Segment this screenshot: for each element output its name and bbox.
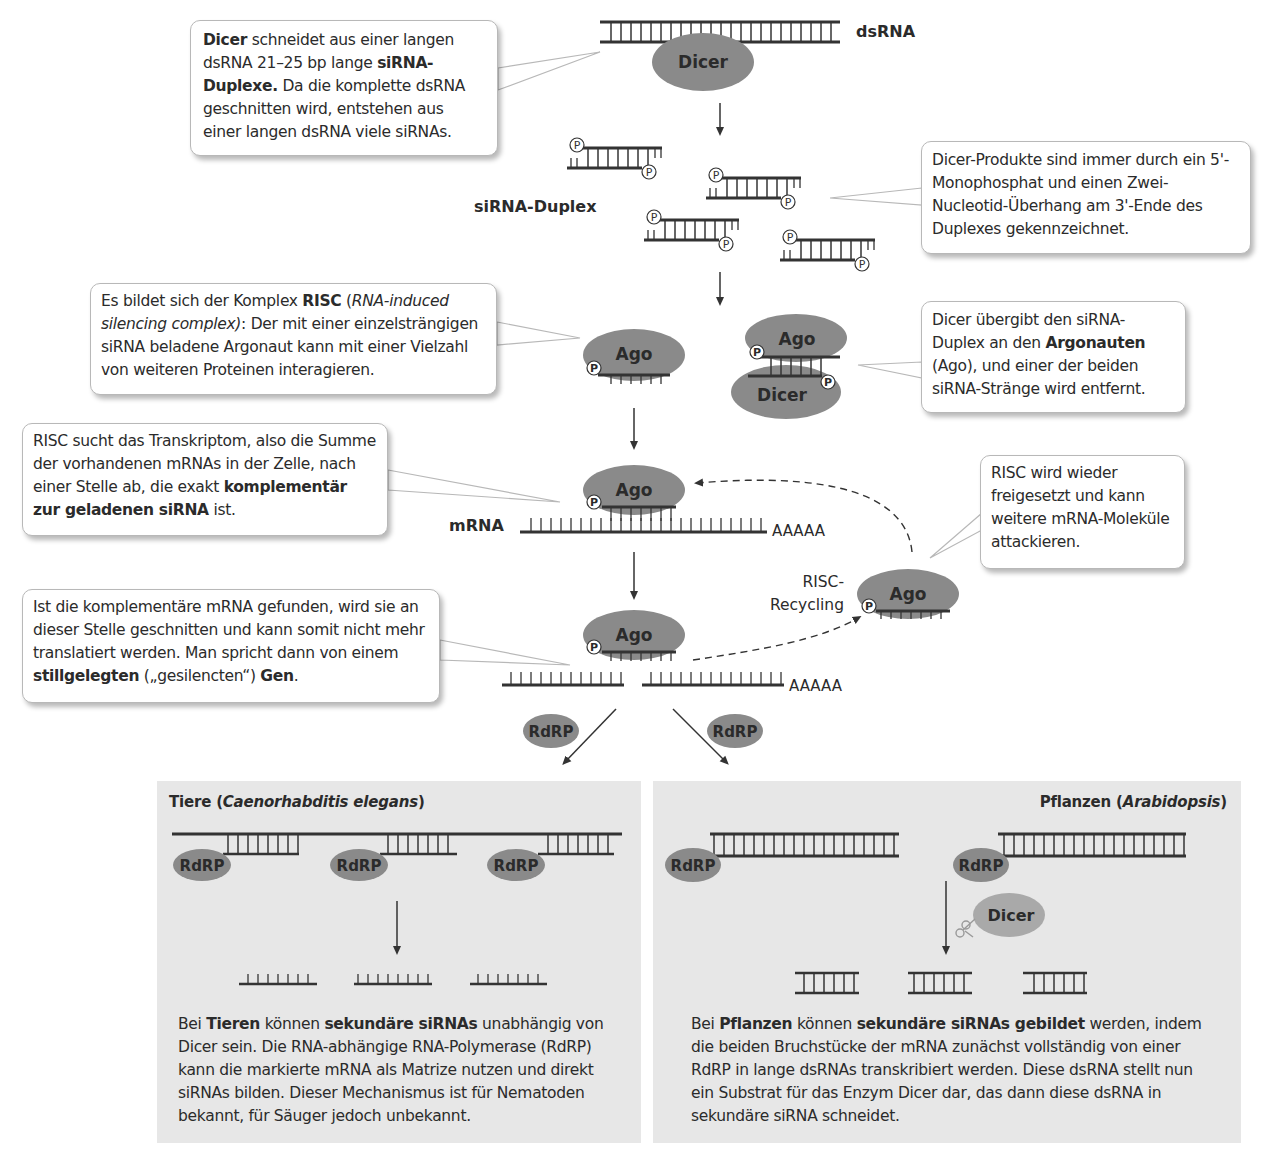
svg-text:P: P [574,139,581,152]
svg-text:Ago: Ago [615,625,652,645]
svg-text:P: P [590,496,598,509]
dsrna-label: dsRNA [856,22,915,41]
svg-text:P: P [859,258,866,271]
svg-text:RdRP: RdRP [337,857,382,875]
svg-text:Dicer: Dicer [678,52,729,72]
sirna-duplexes: P P P P P P [567,138,875,271]
svg-text:P: P [646,166,653,179]
svg-text:P: P [651,211,658,224]
svg-text:RdRP: RdRP [713,723,758,741]
scissors-icon [956,919,975,937]
svg-text:P: P [723,238,730,251]
cleaved-mrna [502,672,784,685]
ago-bound-mrna: Ago P [583,465,685,521]
polya-tail-label: AAAAA [772,522,825,540]
sirna-duplex-label: siRNA-Duplex [474,197,597,216]
svg-text:P: P [713,169,720,182]
polya-tail-label-cleaved: AAAAA [789,677,842,695]
callout-risc-search: RISC sucht das Transkriptom, also die Su… [22,423,388,536]
dicer-enzyme-top: Dicer [652,33,754,91]
callout-risc-complex: Es bildet sich der Komplex RISC (RNA-ind… [90,283,497,395]
callout-risc-release: RISC wird wieder freigesetzt und kann we… [980,455,1185,569]
rdrp-enzyme-left: RdRP [523,714,579,748]
svg-text:P: P [865,600,873,613]
risc-recycling-line1: RISC- [762,571,844,594]
callout-mrna-cut: Ist die komplementäre mRNA gefunden, wir… [22,589,440,703]
svg-text:P: P [824,376,832,389]
ago-dicer-handover: Dicer Ago P P [731,314,847,419]
ago-recycled: Ago P [857,569,959,619]
panel-plants-text: Bei Pflanzen können sekundäre siRNAs geb… [691,1013,1211,1128]
svg-text:P: P [753,346,761,359]
svg-text:Ago: Ago [889,584,926,604]
svg-text:Ago: Ago [778,329,815,349]
svg-text:RdRP: RdRP [494,857,539,875]
svg-text:Ago: Ago [615,344,652,364]
svg-text:P: P [787,231,794,244]
callout-dicer-cut: Dicer schneidet aus einer langen dsRNA 2… [190,20,498,156]
svg-text:Dicer: Dicer [757,385,808,405]
svg-text:P: P [590,362,598,375]
risc-recycling-label: RISC- Recycling [762,571,844,617]
animals-rdrp-diagram: RdRP RdRP RdRP [157,781,641,1001]
svg-text:P: P [785,196,792,209]
panel-animals-text: Bei Tieren können sekundäre siRNAs unabh… [178,1013,628,1128]
mrna-label: mRNA [449,516,504,535]
svg-text:RdRP: RdRP [180,857,225,875]
svg-text:RdRP: RdRP [671,857,716,875]
svg-text:P: P [590,641,598,654]
risc-recycling-line2: Recycling [762,594,844,617]
plants-rdrp-diagram: RdRP RdRP Dicer [653,781,1241,1001]
svg-text:Ago: Ago [615,480,652,500]
panel-animals: Tiere (Caenorhabditis elegans) RdRP RdRP… [157,781,641,1143]
ago-loaded-risc: Ago P [583,329,685,384]
svg-text:RdRP: RdRP [529,723,574,741]
panel-plants: Pflanzen (Arabidopsis) RdRP RdRP Dicer [653,781,1241,1143]
svg-text:RdRP: RdRP [959,857,1004,875]
callout-dicer-handover: Dicer übergibt den siRNA-Duplex an den A… [921,301,1186,413]
rdrp-enzyme-right: RdRP [707,714,763,748]
ago-cleaving: Ago P [583,610,685,661]
svg-text:Dicer: Dicer [988,906,1035,925]
callout-dicer-products: Dicer-Produkte sind immer durch ein 5'-M… [921,141,1251,254]
mrna-strand [520,518,767,532]
